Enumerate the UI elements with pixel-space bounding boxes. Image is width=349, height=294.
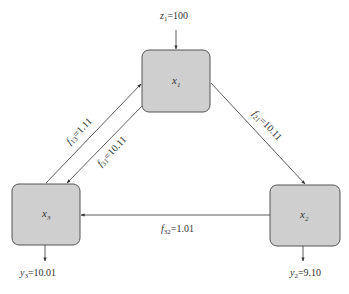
edge-f32: f32=1.01 [81, 215, 270, 236]
edge-f13-value: =1.11 [70, 115, 94, 139]
output-y2: y2=9.10 [289, 246, 321, 280]
svg-text:f32=1.01: f32=1.01 [161, 223, 194, 236]
edge-arrow [46, 84, 141, 183]
svg-text:z1=100: z1=100 [159, 10, 188, 23]
edge-f21-value: =10.11 [257, 115, 284, 143]
node-x1: x1 [142, 50, 210, 112]
node-x3-sub: 3 [46, 214, 51, 222]
flow-network-diagram: x1 x3 x2 z1=100 f13=1.11 f31=10.11 [0, 0, 349, 294]
edge-arrow [211, 83, 305, 184]
svg-text:y3=10.01: y3=10.01 [19, 267, 56, 280]
svg-text:f31=10.11: f31=10.11 [95, 134, 130, 170]
edge-f32-value: =1.01 [171, 223, 194, 234]
svg-text:y2=9.10: y2=9.10 [289, 267, 321, 280]
svg-text:f13=1.11: f13=1.11 [64, 115, 96, 147]
input-z1-value: =100 [167, 10, 188, 21]
edge-f31-value: =10.11 [101, 134, 128, 162]
output-y3: y3=10.01 [19, 245, 56, 280]
node-x1-sub: 1 [177, 81, 181, 89]
edge-f13: f13=1.11 [46, 84, 141, 183]
node-x3: x3 [12, 184, 80, 245]
input-z1: z1=100 [159, 10, 188, 49]
edge-arrow [67, 106, 142, 183]
edge-f21: f21=10.11 [211, 83, 305, 184]
output-y2-value: =9.10 [298, 267, 321, 278]
node-x2: x2 [270, 185, 340, 246]
node-x2-sub: 2 [305, 215, 309, 223]
output-y3-value: =10.01 [28, 267, 56, 278]
edge-f31: f31=10.11 [67, 106, 142, 183]
svg-text:f21=10.11: f21=10.11 [249, 108, 284, 144]
